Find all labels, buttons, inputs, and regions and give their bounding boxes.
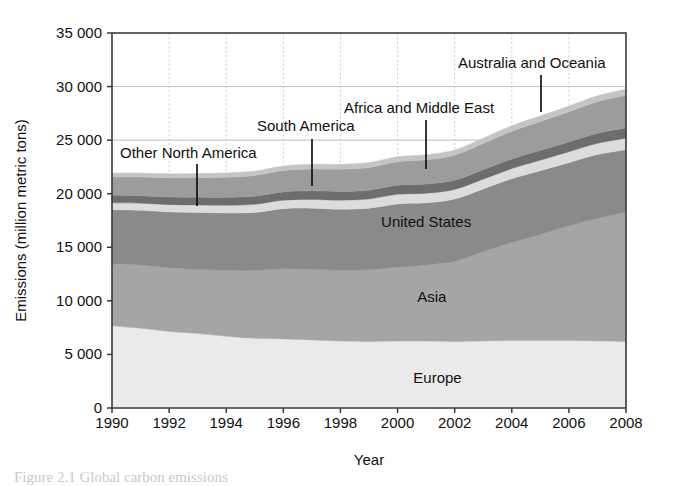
inline-label-asia: Asia [417,288,447,305]
y-axis-tick-label: 5 000 [64,345,102,362]
x-axis-tick-label: 1998 [324,414,357,431]
x-axis-tick-label: 1990 [95,414,128,431]
y-axis-tick-label: 15 000 [56,238,102,255]
callout-label-australia-and-oceania: Australia and Oceania [458,54,606,71]
x-axis-tick-label: 1996 [267,414,300,431]
x-axis-tick-label: 1992 [152,414,185,431]
y-axis-title: Emissions (million metric tons) [12,119,29,322]
callout-label-africa-and-middle-east: Africa and Middle East [344,99,495,116]
x-axis-tick-label: 2000 [381,414,414,431]
x-axis-tick-label: 2002 [438,414,471,431]
x-axis-tick-label: 2004 [495,414,528,431]
x-axis-tick-label: 2008 [609,414,642,431]
y-axis-tick-label: 25 000 [56,131,102,148]
callout-label-south-america: South America [257,117,355,134]
stacked-area-chart: 05 00010 00015 00020 00025 00030 00035 0… [0,0,678,486]
y-axis-tick-label: 10 000 [56,292,102,309]
figure-container: 05 00010 00015 00020 00025 00030 00035 0… [0,0,678,486]
figure-caption-strip: Figure 2.1 Global carbon emissions [0,472,678,486]
x-axis-tick-label: 2006 [552,414,585,431]
x-axis-tick-label: 1994 [210,414,243,431]
x-axis-title: Year [354,451,384,468]
inline-label-europe: Europe [413,369,461,386]
y-axis-tick-label: 30 000 [56,78,102,95]
callout-label-other-north-america: Other North America [120,144,257,161]
y-axis-tick-label: 20 000 [56,185,102,202]
figure-caption: Figure 2.1 Global carbon emissions [14,472,228,486]
inline-label-united-states: United States [381,213,471,230]
y-axis-tick-label: 35 000 [56,24,102,41]
